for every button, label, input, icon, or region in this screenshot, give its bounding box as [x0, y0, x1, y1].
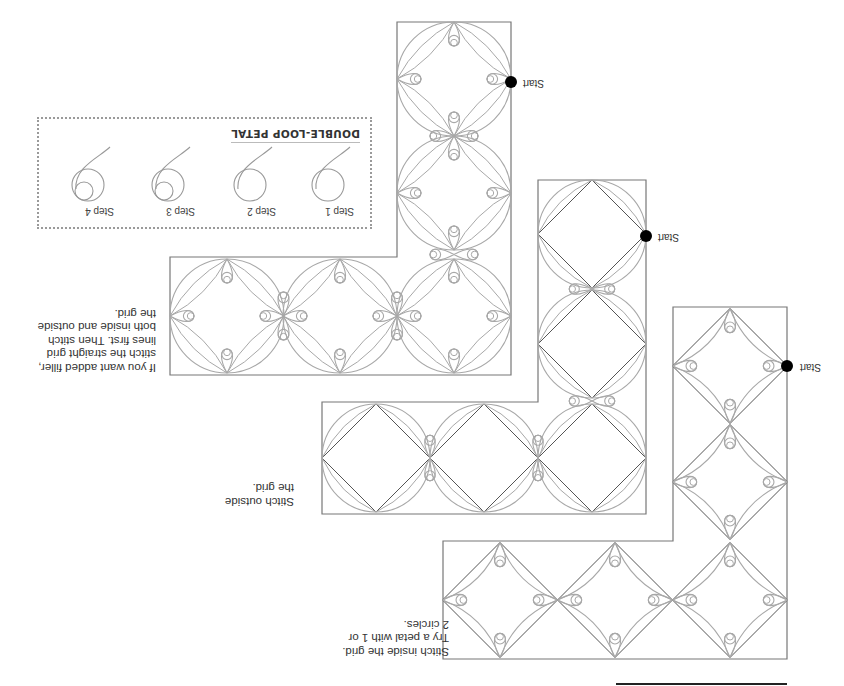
start-label-2: Start [658, 232, 679, 243]
petal-inner-circle [610, 633, 621, 644]
petal-inner-circle-2 [260, 313, 267, 320]
lens-arc [454, 136, 511, 193]
lens-arc [397, 193, 454, 250]
petal-inner-circle-2 [280, 292, 287, 299]
petal-inner-circle [487, 311, 498, 322]
petal-inner-circle-2 [727, 399, 734, 406]
seam-petal [454, 249, 478, 260]
petal-inner-circle-2 [337, 349, 344, 356]
lens-arc [283, 316, 340, 373]
lens-arc [397, 22, 454, 79]
lens-arc [454, 316, 511, 373]
petal-inner-circle [686, 477, 697, 488]
note-inside-grid: Stitch inside the grid. Try a petal with… [309, 618, 449, 659]
petal-inner-circle-2 [187, 313, 194, 320]
petal-inner-circle [725, 633, 736, 644]
inward-petal [334, 259, 345, 283]
seam-petal [592, 284, 615, 294]
petal-inner-circle [487, 188, 498, 199]
petal-inner-circle-2 [430, 133, 437, 140]
step-4-label: Step 4 [85, 206, 114, 217]
petal-inner-circle [410, 188, 421, 199]
outside-arc-circle [538, 180, 646, 288]
seam-petal [569, 284, 592, 294]
lens-arc [397, 193, 454, 250]
petal-inner-circle-2 [427, 475, 433, 481]
inward-petal [448, 226, 459, 250]
petal-inner-circle [430, 249, 441, 260]
petal-inner-circle [449, 112, 460, 123]
inward-petal [397, 73, 421, 84]
start-dot [781, 360, 793, 372]
inward-petal [221, 349, 232, 373]
petal-inner-circle-2 [414, 190, 421, 197]
lens-arc [340, 259, 397, 316]
petal-inner-circle [725, 556, 736, 567]
lens-arc [170, 316, 227, 373]
petal-inner-circle [725, 322, 736, 333]
lens-arc [454, 136, 511, 193]
petal-inner-circle [725, 399, 736, 410]
petal-inner-circle [725, 515, 736, 526]
petal-inner-circle [222, 349, 233, 360]
petal-inner-circle-2 [612, 560, 619, 567]
quilting-pattern-page: DOUBLE-LOOP PETAL Step 1 Step 2 Step 3 S… [0, 0, 844, 686]
petal-inner-circle [373, 311, 384, 322]
petal-inner-circle-2 [763, 597, 770, 604]
petal-inner-circle-2 [609, 286, 615, 292]
double-loop-petal-box: DOUBLE-LOOP PETAL Step 1 Step 2 Step 3 S… [37, 117, 372, 229]
petal-inner-circle [335, 349, 346, 360]
outside-arc-circle [430, 404, 538, 512]
lens-arc [397, 22, 454, 79]
lens-arc [170, 259, 227, 316]
lens-arc [454, 259, 511, 316]
lens-arc [397, 136, 454, 193]
petal-inner-circle [449, 272, 460, 283]
petal-inner-circle [648, 595, 659, 606]
petal-inner-circle [456, 595, 467, 606]
petal-inner-circle-2 [427, 435, 433, 441]
inward-petal [448, 349, 459, 373]
lens-arc [340, 259, 397, 316]
petal-inner-circle [725, 438, 736, 449]
lens-arc [454, 79, 511, 136]
start-label-1: Start [523, 78, 544, 89]
petal-inner-circle [183, 311, 194, 322]
petal-inner-circle-2 [300, 313, 307, 320]
border-outline-outside-grid [322, 180, 646, 514]
petal-inner-circle [571, 595, 582, 606]
border-outline-inside-grid [443, 307, 787, 659]
petal-inner-circle [335, 272, 346, 283]
double-loop-petal-title: DOUBLE-LOOP PETAL [231, 128, 360, 143]
lens-arc [340, 316, 397, 373]
petal-inner-circle [533, 595, 544, 606]
petal-inner-circle [569, 396, 579, 406]
note-outside-grid: Stitch outside the grid. [184, 481, 294, 508]
inward-petal [397, 310, 421, 321]
petal-inner-circle-2 [535, 475, 541, 481]
lens-arc [454, 22, 511, 79]
petal-inner-circle [449, 149, 460, 160]
lens-arc [227, 259, 284, 316]
seam-petal [430, 249, 454, 260]
petal-inner-circle [410, 74, 421, 85]
petal-inner-circle-2 [487, 76, 494, 83]
inward-petal [448, 259, 459, 283]
petal-inner-circle-2 [451, 226, 458, 233]
petal-inner-circle [495, 633, 506, 644]
petal-inner-circle [260, 311, 271, 322]
outside-arc-circle [538, 404, 646, 512]
lens-arc [397, 79, 454, 136]
petal-inner-circle [449, 349, 460, 360]
petal-inner-circle [686, 595, 697, 606]
lens-arc [397, 259, 454, 316]
lens-arc [170, 259, 227, 316]
petal-inner-circle-2 [763, 479, 770, 486]
petal-inner-circle [763, 477, 774, 488]
petal-inner-circle [449, 226, 460, 237]
petal-inner-circle-2 [471, 133, 478, 140]
lens-arc [397, 79, 454, 136]
inward-petal [334, 349, 345, 373]
outside-arc-circle [322, 404, 430, 512]
petal-inner-circle-2 [394, 292, 401, 299]
